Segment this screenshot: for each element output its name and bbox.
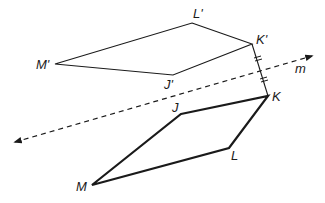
label-j-prime: J': [163, 77, 174, 92]
label-k: K: [272, 89, 282, 104]
label-m-prime: M': [36, 57, 50, 72]
label-l-prime: L': [193, 6, 203, 21]
label-l: L: [231, 148, 238, 163]
label-m: M: [76, 179, 87, 194]
reflection-diagram: L' K' M' J' m K J L M: [0, 0, 325, 203]
label-k-prime: K': [256, 32, 268, 47]
label-line-m: m: [295, 61, 306, 76]
label-j: J: [171, 100, 179, 115]
segment-k-kprime: [252, 44, 268, 96]
image-quadrilateral: [55, 23, 252, 75]
preimage-quadrilateral: [92, 96, 268, 185]
